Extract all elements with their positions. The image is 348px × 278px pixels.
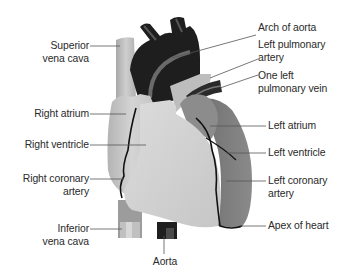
- label-line: artery: [258, 51, 325, 64]
- leader-left-pulmonary-vein: [220, 75, 258, 88]
- label-line: Right coronary: [23, 172, 89, 185]
- label-right-coronary-artery: Right coronary artery: [23, 172, 89, 198]
- label-line: Right atrium: [34, 107, 89, 120]
- label-line: artery: [268, 187, 327, 200]
- label-line: vena cava: [43, 235, 89, 248]
- label-inferior-vena-cava: Inferior vena cava: [43, 222, 89, 248]
- label-right-atrium: Right atrium: [34, 107, 89, 120]
- label-line: Inferior: [43, 222, 89, 235]
- descending-aorta-shape: [157, 222, 177, 239]
- label-right-ventricle: Right ventricle: [25, 138, 89, 151]
- label-line: vena cava: [43, 52, 89, 65]
- label-line: Left coronary: [268, 174, 327, 187]
- label-left-atrium: Left atrium: [268, 119, 316, 132]
- label-line: Left ventricle: [268, 146, 326, 159]
- label-line: Left atrium: [268, 119, 316, 132]
- label-left-pulmonary-artery: Left pulmonary artery: [258, 38, 325, 64]
- label-line: One left: [258, 69, 327, 82]
- label-one-left-pulmonary-vein: One left pulmonary vein: [258, 69, 327, 95]
- label-line: Arch of aorta: [258, 21, 316, 34]
- label-superior-vena-cava: Superior vena cava: [43, 39, 89, 65]
- leader-left-pulmonary-artery: [210, 59, 258, 78]
- label-line: Aorta: [150, 255, 180, 268]
- label-apex-of-heart: Apex of heart: [268, 219, 329, 232]
- label-line: Apex of heart: [268, 219, 329, 232]
- label-line: Right ventricle: [25, 138, 89, 151]
- label-line: artery: [23, 185, 89, 198]
- label-left-ventricle: Left ventricle: [268, 146, 326, 159]
- label-line: pulmonary vein: [258, 82, 327, 95]
- label-arch-of-aorta: Arch of aorta: [258, 21, 316, 34]
- label-line: Superior: [43, 39, 89, 52]
- label-aorta: Aorta: [150, 255, 180, 268]
- label-left-coronary-artery: Left coronary artery: [268, 174, 327, 200]
- label-line: Left pulmonary: [258, 38, 325, 51]
